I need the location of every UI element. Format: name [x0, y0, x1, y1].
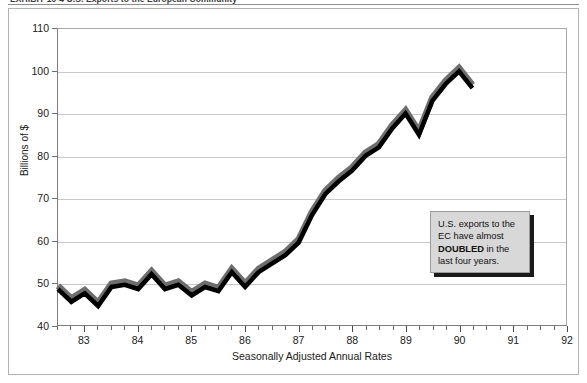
y-tick-label-40: 40 — [9, 320, 49, 332]
series-main-path — [58, 71, 472, 306]
x-tick-88.25 — [366, 326, 367, 330]
x-tick-label-91: 91 — [498, 334, 528, 346]
x-tick-label-83: 83 — [69, 334, 99, 346]
x-tick-86.5 — [272, 326, 273, 330]
x-tick-88 — [352, 326, 353, 332]
x-tick-83.5 — [111, 326, 112, 330]
x-tick-83.75 — [124, 326, 125, 330]
x-tick-91.75 — [554, 326, 555, 330]
y-tick-label-60: 60 — [9, 235, 49, 247]
x-tick-91.5 — [540, 326, 541, 330]
x-tick-87.75 — [339, 326, 340, 330]
annotation-callout: U.S. exports to the EC have almost DOUBL… — [430, 211, 530, 273]
x-tick-91 — [513, 326, 514, 332]
y-tick-label-110: 110 — [9, 22, 49, 34]
x-tick-87.5 — [325, 326, 326, 330]
x-tick-label-84: 84 — [123, 334, 153, 346]
plot-area — [57, 28, 567, 326]
x-axis-ticks — [57, 326, 567, 334]
x-tick-label-86: 86 — [230, 334, 260, 346]
x-tick-84.5 — [164, 326, 165, 330]
callout-line-4: last four years. — [438, 256, 499, 266]
x-axis-title: Seasonally Adjusted Annual Rates — [57, 350, 567, 362]
x-tick-86.75 — [285, 326, 286, 330]
x-tick-label-92: 92 — [552, 334, 582, 346]
x-tick-88.5 — [379, 326, 380, 330]
x-tick-87 — [299, 326, 300, 332]
x-tick-89.75 — [446, 326, 447, 330]
x-tick-84.25 — [151, 326, 152, 330]
x-tick-90.25 — [473, 326, 474, 330]
y-axis-labels: 405060708090100110 — [8, 28, 49, 326]
x-tick-85 — [191, 326, 192, 332]
x-tick-87.25 — [312, 326, 313, 330]
callout-line-3: in the — [484, 244, 509, 254]
x-tick-89.5 — [433, 326, 434, 330]
callout-emphasis: DOUBLED — [438, 244, 484, 254]
x-tick-84.75 — [178, 326, 179, 330]
callout-line-2: EC have almost — [438, 231, 504, 241]
x-tick-86.25 — [258, 326, 259, 330]
y-tick-label-50: 50 — [9, 277, 49, 289]
x-tick-84 — [138, 326, 139, 332]
callout-line-1: U.S. exports to the — [438, 219, 515, 229]
x-tick-label-85: 85 — [176, 334, 206, 346]
x-tick-label-89: 89 — [391, 334, 421, 346]
y-tick-label-100: 100 — [9, 65, 49, 77]
x-tick-85.5 — [218, 326, 219, 330]
x-tick-83 — [84, 326, 85, 332]
x-tick-82.5 — [57, 326, 58, 330]
x-axis-labels: 83848586878889909192 — [57, 334, 567, 348]
x-tick-89.25 — [419, 326, 420, 330]
x-tick-85.75 — [231, 326, 232, 330]
x-tick-92 — [567, 326, 568, 332]
x-tick-85.25 — [205, 326, 206, 330]
y-tick-label-80: 80 — [9, 150, 49, 162]
y-tick-label-70: 70 — [9, 192, 49, 204]
x-tick-90 — [460, 326, 461, 332]
y-tick-label-90: 90 — [9, 107, 49, 119]
x-tick-86 — [245, 326, 246, 332]
x-tick-label-88: 88 — [337, 334, 367, 346]
series-line-chart — [58, 29, 566, 325]
x-tick-89 — [406, 326, 407, 332]
x-tick-88.75 — [393, 326, 394, 330]
x-tick-label-87: 87 — [284, 334, 314, 346]
x-tick-83.25 — [97, 326, 98, 330]
x-tick-label-90: 90 — [445, 334, 475, 346]
x-tick-82.75 — [70, 326, 71, 330]
x-tick-90.75 — [500, 326, 501, 330]
x-tick-90.5 — [486, 326, 487, 330]
title-divider — [8, 4, 579, 5]
x-tick-91.25 — [527, 326, 528, 330]
